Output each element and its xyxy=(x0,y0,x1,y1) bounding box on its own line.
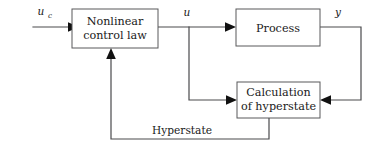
block-diagram: Nonlinear control law Process Calculatio… xyxy=(0,0,383,151)
signal-label-command-input-subscript: c xyxy=(48,11,52,20)
arrow-hyperstate-feedback xyxy=(106,48,116,59)
wire-process-output-path xyxy=(320,27,361,100)
block-nonlinear-control-law[interactable]: Nonlinear control law xyxy=(72,9,158,48)
wire-control-to-process xyxy=(158,22,236,32)
block-calculation-of-hyperstate[interactable]: Calculation of hyperstate xyxy=(237,82,320,118)
signal-label-control-output: u xyxy=(184,6,191,18)
wire-control-branch-path xyxy=(189,27,232,100)
block-calculation-of-hyperstate-line2: of hyperstate xyxy=(241,100,316,113)
arrow-control-to-process xyxy=(225,22,236,32)
arrow-control-branch xyxy=(226,95,237,105)
signal-label-process-output: y xyxy=(334,6,342,18)
block-nonlinear-control-law-line1: Nonlinear xyxy=(87,15,144,28)
arrow-process-output xyxy=(320,95,331,105)
wire-process-output-to-calculation xyxy=(320,27,361,105)
block-process-label: Process xyxy=(256,22,300,35)
signal-label-hyperstate: Hyperstate xyxy=(152,124,212,136)
block-nonlinear-control-law-line2: control law xyxy=(83,29,147,42)
signal-label-command-input-base: u xyxy=(38,5,45,17)
signal-label-command-input: u c xyxy=(38,5,52,20)
block-calculation-of-hyperstate-line1: Calculation xyxy=(246,86,311,99)
diagram-canvas: Nonlinear control law Process Calculatio… xyxy=(0,0,383,151)
wire-control-branch-to-calculation xyxy=(189,27,237,105)
block-process[interactable]: Process xyxy=(236,9,320,46)
